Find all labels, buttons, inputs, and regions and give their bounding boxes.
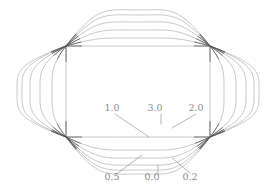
leader-line-1.0 [115, 114, 149, 137]
curve-1.0 [30, 22, 246, 165]
node-convergence-segment [17, 10, 259, 174]
node-convergence-segment [66, 46, 210, 137]
curves-group [17, 10, 259, 174]
node-convergence-segment [52, 38, 224, 150]
curve-label-0.2: 0.2 [182, 171, 197, 182]
node-convergence-segment [52, 38, 224, 150]
node-convergence-segment [66, 46, 210, 137]
node-convergence-segment [30, 22, 246, 165]
node-convergence-segment [52, 38, 224, 150]
curve-3.0 [17, 10, 259, 174]
curve-family-plot: 1.03.02.00.50.00.2 [0, 0, 276, 191]
node-convergence-segment [30, 22, 246, 165]
curve-label-0.5: 0.5 [104, 171, 119, 182]
node-convergence-segment [30, 22, 246, 165]
node-convergence-segment [66, 46, 210, 137]
curve-0.0 [66, 46, 210, 137]
node-convergence-segment [52, 38, 224, 150]
curve-label-2.0: 2.0 [188, 102, 203, 113]
curve-label-0.0: 0.0 [144, 171, 159, 182]
curve-0.2 [52, 38, 224, 150]
node-convergence-segment [17, 10, 259, 174]
crossing-nodes-group [17, 10, 259, 174]
curve-label-3.0: 3.0 [147, 102, 162, 113]
node-convergence-segment [30, 22, 246, 165]
figure-root: 1.03.02.00.50.00.2 [0, 0, 276, 191]
curve-label-1.0: 1.0 [104, 102, 119, 113]
node-convergence-segment [17, 10, 259, 174]
node-convergence-segment [17, 10, 259, 174]
leader-line-2.0 [172, 114, 196, 128]
node-convergence-segment [66, 46, 210, 137]
